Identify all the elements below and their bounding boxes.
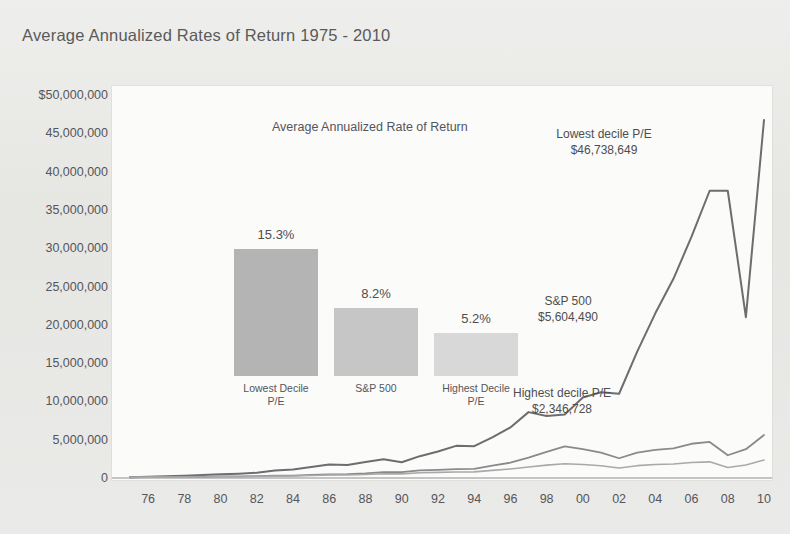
chart-page: Average Annualized Rates of Return 1975 …: [0, 0, 790, 534]
plot-frame: Average Annualized Rate of Return 15.3%L…: [112, 86, 772, 480]
y-axis-tick-label: 45,000,000: [4, 126, 108, 140]
annotation-label: Highest decile P/E: [513, 386, 611, 400]
x-axis-tick-label: 96: [503, 492, 517, 506]
x-axis-tick-label: 88: [359, 492, 373, 506]
x-axis-tick-label: 08: [721, 492, 735, 506]
y-axis-tick-label: 35,000,000: [4, 203, 108, 217]
y-axis-tick-label: 25,000,000: [4, 280, 108, 294]
x-axis-tick-label: 06: [685, 492, 699, 506]
inset-bar-value: 8.2%: [334, 286, 418, 301]
x-axis-tick-label: 90: [395, 492, 409, 506]
inset-bar: [334, 308, 418, 376]
y-axis: $50,000,00045,000,00040,000,00035,000,00…: [0, 0, 108, 534]
y-axis-tick-label: 40,000,000: [4, 165, 108, 179]
x-axis-tick-label: 94: [467, 492, 481, 506]
annotation-lowest-decile: Lowest decile P/E $46,738,649: [504, 126, 704, 158]
x-axis-tick-label: 10: [757, 492, 771, 506]
x-axis-tick-label: 76: [141, 492, 155, 506]
x-axis: 767880828486889092949698000204060810: [112, 492, 772, 516]
inset-title: Average Annualized Rate of Return: [272, 120, 468, 134]
x-axis-tick-label: 84: [286, 492, 300, 506]
y-axis-tick-label: 0: [4, 471, 108, 485]
x-axis-tick-label: 80: [214, 492, 228, 506]
x-axis-tick-label: 92: [431, 492, 445, 506]
x-axis-tick-label: 86: [322, 492, 336, 506]
annotation-value: $5,604,490: [468, 309, 668, 325]
x-axis-tick-label: 02: [612, 492, 626, 506]
x-axis-tick-label: 82: [250, 492, 264, 506]
y-axis-tick-label: $50,000,000: [4, 88, 108, 102]
inset-bar-label: S&P 500: [324, 382, 428, 395]
inset-bar-label-line2: P/E: [224, 395, 328, 408]
y-axis-tick-label: 10,000,000: [4, 394, 108, 408]
x-axis-tick-label: 04: [648, 492, 662, 506]
inset-bar-label: Lowest DecileP/E: [224, 382, 328, 408]
y-axis-tick-label: 15,000,000: [4, 356, 108, 370]
inset-bar-value: 15.3%: [234, 227, 318, 242]
x-axis-tick-label: 00: [576, 492, 590, 506]
inset-bar: [434, 333, 518, 376]
annotation-sp500: S&P 500 $5,604,490: [468, 293, 668, 325]
y-axis-tick-label: 20,000,000: [4, 318, 108, 332]
annotation-label: S&P 500: [544, 294, 591, 308]
annotation-value: $46,738,649: [504, 142, 704, 158]
y-axis-tick-label: 30,000,000: [4, 241, 108, 255]
y-axis-tick-label: 5,000,000: [4, 433, 108, 447]
annotation-highest-decile: Highest decile P/E $2,346,728: [452, 385, 672, 417]
x-axis-tick-label: 78: [177, 492, 191, 506]
annotation-label: Lowest decile P/E: [556, 127, 651, 141]
inset-bar-label-line1: Lowest Decile: [224, 382, 328, 395]
inset-bar: [234, 249, 318, 376]
annotation-value: $2,346,728: [452, 401, 672, 417]
inset-bar-label-line1: S&P 500: [324, 382, 428, 395]
x-axis-tick-label: 98: [540, 492, 554, 506]
